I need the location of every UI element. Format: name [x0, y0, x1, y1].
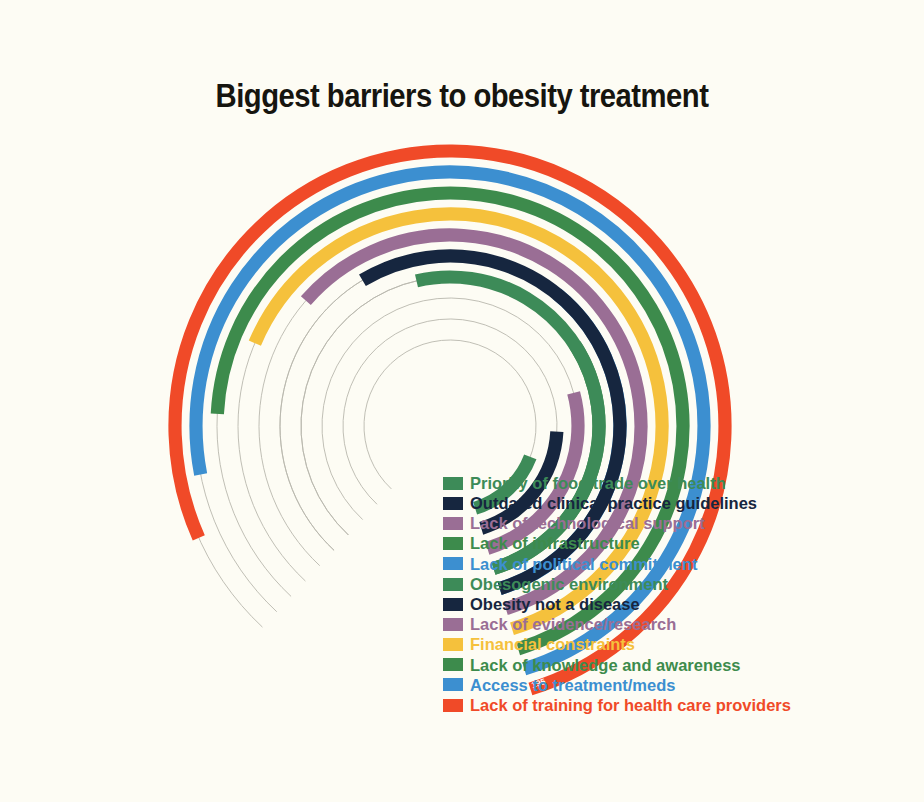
legend-item-label: Lack of technological support: [470, 515, 705, 532]
legend-swatch-icon: [443, 699, 463, 712]
legend-swatch-icon: [443, 477, 463, 490]
legend-swatch-icon: [443, 578, 463, 591]
legend-swatch-icon: [443, 618, 463, 631]
legend-item-label: Lack of knowledge and awareness: [470, 657, 741, 674]
legend-swatch-icon: [443, 537, 463, 550]
legend-item[interactable]: Lack of technological support: [443, 513, 863, 533]
legend-item[interactable]: Lack of infrastructure: [443, 534, 863, 554]
legend-swatch-icon: [443, 678, 463, 691]
legend-item-label: Obesogenic environment: [470, 576, 668, 593]
legend-item-label: Access to treatment/meds: [470, 677, 675, 694]
legend-item[interactable]: Obesity not a disease: [443, 594, 863, 614]
legend-item[interactable]: Priority of food trade over health: [443, 473, 863, 493]
legend-item[interactable]: Lack of knowledge and awareness: [443, 655, 863, 675]
legend-item-label: Outdated clinical practice guidelines: [470, 495, 757, 512]
legend-item-label: Financial constraints: [470, 636, 635, 653]
chart-legend: Priority of food trade over health Outda…: [443, 473, 863, 715]
legend-item-label: Lack of training for health care provide…: [470, 697, 791, 714]
legend-item[interactable]: Lack of training for health care provide…: [443, 695, 863, 715]
legend-item-label: Lack of infrastructure: [470, 535, 640, 552]
legend-swatch-icon: [443, 658, 463, 671]
legend-item-label: Lack of evidence/research: [470, 616, 676, 633]
legend-swatch-icon: [443, 638, 463, 651]
legend-item[interactable]: Lack of evidence/research: [443, 614, 863, 634]
legend-swatch-icon: [443, 557, 463, 570]
legend-item-label: Priority of food trade over health: [470, 475, 726, 492]
legend-item[interactable]: Outdated clinical practice guidelines: [443, 493, 863, 513]
legend-swatch-icon: [443, 517, 463, 530]
legend-item[interactable]: Lack of political commitment: [443, 554, 863, 574]
radial-bar-chart-figure: Biggest barriers to obesity treatment Pr…: [0, 0, 924, 802]
legend-swatch-icon: [443, 497, 463, 510]
legend-item[interactable]: Obesogenic environment: [443, 574, 863, 594]
legend-item[interactable]: Financial constraints: [443, 635, 863, 655]
legend-swatch-icon: [443, 598, 463, 611]
legend-item[interactable]: Access to treatment/meds: [443, 675, 863, 695]
legend-item-label: Lack of political commitment: [470, 556, 697, 573]
legend-item-label: Obesity not a disease: [470, 596, 640, 613]
